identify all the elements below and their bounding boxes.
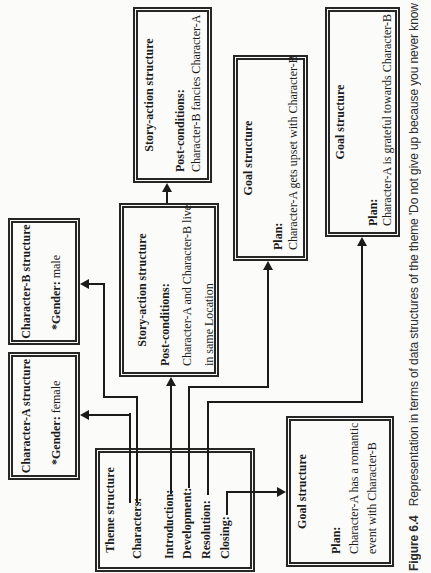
connector-closing-to-goal-romantic [226,491,278,493]
connector-story-action-1-to-story-action-2 [166,191,168,203]
plan-label: Plan: [329,527,344,554]
story-action-1-title: Story-action structure [135,208,150,372]
box-character-b-structure: Character-B structure *Gender: male [8,218,80,345]
theme-label-resolution: Resolution: [199,500,214,559]
plan-line-2: event with Character-B [365,442,380,554]
goal-upset-title: Goal structure [241,60,256,256]
gender-label: *Gender: [49,416,63,465]
goal-romantic-title: Goal structure [295,421,310,562]
connector-development-to-goal-upset [267,269,269,388]
gender-value: male [49,255,63,278]
connector-resolution-to-goal-grateful [207,401,363,403]
arrowhead-icon [263,261,273,270]
plan-line-1: Character-A has a romantic [347,423,362,554]
post-conditions-label: Post-conditions: [173,89,188,172]
plan-line-1: Character-A gets upset with Character-B [286,55,301,250]
post-conditions-line-1: Character-B fancies Character-A [189,15,204,172]
arrowhead-icon [162,183,172,192]
arrowhead-icon [357,237,367,246]
connector-characters-to-character-a [87,414,131,416]
goal-grateful-title: Goal structure [333,12,348,232]
connector-development-to-goal-upset [188,386,190,488]
character-a-title: Character-A structure [19,357,34,475]
character-b-gender-line: *Gender: male [49,255,64,330]
post-conditions-line-2: in same Location [202,283,217,366]
figure-number: Figure 6.4 [407,515,421,571]
connector-resolution-to-goal-grateful [361,245,363,403]
theme-label-closing: Closing: [218,516,233,559]
box-story-action-structure-1: Story-action structure Post-conditions: … [119,203,219,377]
theme-label-characters: Characters: [130,498,145,559]
connector-characters-to-character-b [103,283,105,398]
connector-characters-to-character-a [129,413,131,503]
box-character-a-structure: Character-A structure *Gender: female [8,352,80,480]
story-action-2-title: Story-action structure [142,12,157,178]
diagram-stage: Theme structure Characters: Introduction… [0,0,431,573]
post-conditions-line-1: Character-A and Character-B live [180,205,195,366]
gender-value: female [49,381,63,414]
connector-development-to-goal-upset [188,386,269,388]
connector-characters-to-character-b [136,396,138,503]
connector-introduction-to-story-action-1 [170,385,172,494]
gender-label: *Gender: [49,281,63,330]
arrowhead-icon [80,410,89,420]
character-b-title: Character-B structure [19,223,34,340]
figure-caption-text: Representation in terms of data structur… [407,3,421,506]
theme-label-introduction: Introduction: [162,490,177,559]
box-story-action-structure-2: Story-action structure Post-conditions: … [133,7,212,183]
box-theme-structure: Theme structure Characters: Introduction… [95,448,255,572]
box-goal-structure-romantic: Goal structure Plan: Character-A has a r… [286,416,394,567]
post-conditions-label: Post-conditions: [158,283,173,366]
arrowhead-icon [166,377,176,386]
box-goal-structure-grateful: Goal structure Plan: Character-A is grat… [325,7,400,237]
character-a-gender-line: *Gender: female [49,381,64,465]
arrowhead-icon [277,487,286,497]
connector-characters-to-character-b [103,396,138,398]
arrowhead-icon [80,279,89,289]
theme-label-development: Development: [180,488,195,559]
plan-label: Plan: [271,223,286,250]
connector-closing-to-goal-romantic [226,491,228,515]
plan-label: Plan: [366,199,381,226]
connector-characters-to-character-b [87,283,105,285]
plan-line-1: Character-A is grateful towards Characte… [380,14,395,226]
theme-title: Theme structure [103,453,118,567]
box-goal-structure-upset: Goal structure Plan: Character-A gets up… [233,55,308,261]
figure-caption: Figure 6.4Representation in terms of dat… [407,0,421,571]
connector-resolution-to-goal-grateful [207,401,209,495]
scanned-figure-page: Theme structure Characters: Introduction… [0,0,431,573]
